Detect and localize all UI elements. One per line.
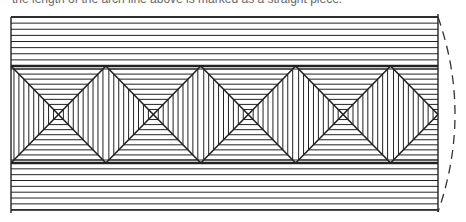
dashed-arch-line (438, 17, 455, 212)
outer-frame (11, 14, 438, 213)
cell-diagonal (391, 115, 438, 164)
top-stripe-region (11, 17, 438, 60)
bottom-stripe-region (11, 169, 438, 210)
hatched-band-diagram (0, 0, 466, 222)
diamond-band (11, 66, 438, 163)
cell-diagonal (391, 66, 438, 115)
